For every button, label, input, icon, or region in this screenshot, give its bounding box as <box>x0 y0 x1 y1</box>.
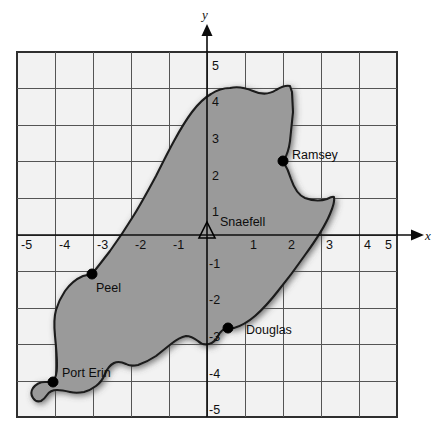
x-tick-label: 1 <box>250 238 257 252</box>
y-axis-label: y <box>200 7 208 22</box>
city-marker-douglas[interactable] <box>223 323 233 333</box>
y-tick-label: -2 <box>209 293 220 307</box>
x-axis-arrowhead <box>411 230 424 241</box>
x-tick-label: 3 <box>326 238 333 252</box>
x-tick-label: 2 <box>288 238 295 252</box>
y-tick-label: 2 <box>212 169 219 183</box>
isle-of-man-coordinate-figure: x y -5 -4 -3 -2 -1 1 2 3 4 5 5 4 3 2 1 -… <box>0 0 447 438</box>
x-axis-label: x <box>424 228 431 243</box>
city-label-snaefell: Snaefell <box>220 215 265 229</box>
y-tick-label: 3 <box>212 132 219 146</box>
city-marker-ramsey[interactable] <box>278 156 288 166</box>
x-tick-label: -2 <box>135 238 146 252</box>
city-label-douglas: Douglas <box>246 323 292 337</box>
y-tick-label: -4 <box>209 367 220 381</box>
y-tick-label: -1 <box>209 257 220 271</box>
city-marker-port-erin[interactable] <box>48 377 58 387</box>
x-tick-label: -1 <box>173 238 184 252</box>
y-axis-arrowhead <box>202 24 213 36</box>
x-tick-label: -3 <box>97 238 108 252</box>
y-tick-label: -3 <box>209 330 220 344</box>
x-tick-label: 5 <box>385 238 392 252</box>
city-label-peel: Peel <box>96 281 121 295</box>
x-tick-label: -5 <box>21 238 32 252</box>
x-tick-label: 4 <box>364 238 371 252</box>
city-label-ramsey: Ramsey <box>292 148 339 162</box>
city-marker-peel[interactable] <box>87 269 97 279</box>
y-tick-label: -5 <box>209 403 220 417</box>
y-tick-label: 5 <box>212 59 219 73</box>
city-label-port-erin: Port Erin <box>62 366 111 380</box>
y-tick-label: 1 <box>212 205 219 219</box>
y-tick-label: 4 <box>212 95 219 109</box>
x-tick-label: -4 <box>59 238 70 252</box>
